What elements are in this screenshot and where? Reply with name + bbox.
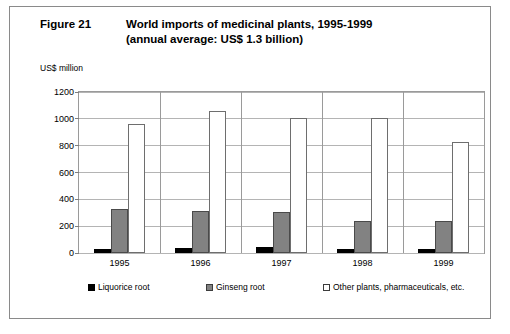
bar-group-1995: 1995 [79, 92, 160, 253]
y-axis-tick-label: 600 [59, 168, 74, 178]
y-axis-tick-label: 1000 [54, 114, 74, 124]
legend-item-2[interactable]: Other plants, pharmaceuticals, etc. [323, 282, 464, 292]
y-axis-tick-label: 400 [59, 194, 74, 204]
x-axis-tick-label: 1998 [322, 258, 403, 268]
bar-1997-series-2[interactable] [290, 118, 307, 253]
bar-1996-series-2[interactable] [209, 111, 226, 253]
category-separator [403, 92, 404, 253]
bar-1996-series-0[interactable] [175, 248, 192, 253]
y-axis-tick-label: 200 [59, 221, 74, 231]
bar-1995-series-2[interactable] [128, 124, 145, 253]
bar-1999-series-1[interactable] [435, 221, 452, 253]
bar-group-1997: 1997 [241, 92, 322, 253]
x-axis-tick-label: 1995 [79, 258, 160, 268]
x-axis-tick-label: 1997 [241, 258, 322, 268]
y-axis-tick-label: 800 [59, 141, 74, 151]
figure-title: World imports of medicinal plants, 1995-… [126, 17, 372, 47]
bar-1999-series-0[interactable] [418, 249, 435, 253]
bar-1996-series-1[interactable] [192, 211, 209, 253]
category-separator [160, 92, 161, 253]
legend-swatch-icon [323, 284, 330, 291]
bar-1998-series-2[interactable] [371, 118, 388, 254]
legend-label: Liquorice root [98, 282, 150, 292]
bar-1998-series-1[interactable] [354, 221, 371, 253]
y-axis-unit-label: US$ million [40, 63, 83, 73]
legend-swatch-icon [206, 284, 213, 291]
category-separator [241, 92, 242, 253]
bar-1995-series-0[interactable] [94, 249, 111, 253]
x-axis-tick-label: 1996 [160, 258, 241, 268]
legend-swatch-icon [88, 284, 95, 291]
bar-group-1998: 1998 [322, 92, 403, 253]
chart-plot-area: 0200400600800100012001995199619971998199… [78, 91, 485, 254]
bar-1998-series-0[interactable] [337, 249, 354, 253]
y-axis-tick-label: 0 [69, 248, 74, 258]
figure-number: Figure 21 [40, 18, 91, 30]
figure-title-line-1: World imports of medicinal plants, 1995-… [126, 18, 372, 30]
bar-1995-series-1[interactable] [111, 209, 128, 253]
bar-1997-series-1[interactable] [273, 212, 290, 253]
legend-item-1[interactable]: Ginseng root [206, 282, 265, 292]
y-axis-tick-label: 1200 [54, 87, 74, 97]
bar-group-1996: 1996 [160, 92, 241, 253]
legend-label: Other plants, pharmaceuticals, etc. [333, 282, 464, 292]
legend-item-0[interactable]: Liquorice root [88, 282, 150, 292]
figure-header: Figure 21 World imports of medicinal pla… [10, 7, 490, 57]
figure-frame: Figure 21 World imports of medicinal pla… [9, 6, 491, 319]
x-axis-tick-label: 1999 [403, 258, 484, 268]
chart-legend: Liquorice rootGinseng rootOther plants, … [78, 282, 488, 296]
figure-title-line-2: (annual average: US$ 1.3 billion) [126, 32, 372, 47]
legend-label: Ginseng root [216, 282, 265, 292]
bar-1999-series-2[interactable] [452, 142, 469, 253]
bar-group-1999: 1999 [403, 92, 484, 253]
category-separator [322, 92, 323, 253]
bar-1997-series-0[interactable] [256, 247, 273, 253]
